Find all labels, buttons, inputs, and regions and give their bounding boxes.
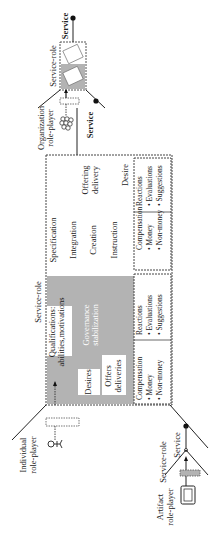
org-interface-bar (60, 98, 79, 104)
creation-label: Creation (88, 225, 98, 255)
organization-service-role-box (60, 42, 86, 90)
left-nonmoney: • Non-money (155, 359, 164, 400)
artifact-interface-bar (180, 470, 200, 476)
desire-label: Desire (120, 164, 130, 186)
artifact-service-label: Service (172, 432, 182, 458)
service-system-diagram: Organization role-player Service-role Se… (0, 0, 217, 543)
specification-label: Specification (48, 217, 58, 263)
qualifications-line2: abilities,motivations (56, 297, 66, 366)
left-evaluations: • Evaluations (145, 295, 154, 335)
artifact-service-role-label: Service-role (158, 441, 168, 483)
org-label-line2: role-player (45, 109, 55, 146)
offering-line2: delivery (90, 165, 100, 194)
org-connector-left (38, 90, 60, 108)
left-reactions: Reactions (135, 305, 144, 335)
individual-label-line1: Individual (18, 437, 28, 473)
right-compensation: Compensation (135, 206, 144, 250)
left-compensation: Compensation (135, 356, 144, 400)
individual-connector (12, 405, 46, 440)
organization-icon (60, 117, 73, 130)
artifact-label-line1: Artifact (155, 493, 165, 520)
right-suggestions: • Suggestions (155, 165, 164, 206)
integration-label: Integration (68, 221, 78, 259)
service-dot-mid (93, 98, 98, 103)
right-reactions: Reactions (135, 176, 144, 206)
offers-line1: Offers (103, 365, 113, 387)
org-service-top-label: Service (60, 13, 70, 40)
org-service-role-label: Service-role (48, 45, 58, 87)
left-money: • Money (145, 374, 154, 400)
person-icon (48, 440, 62, 448)
left-suggestions: • Suggestions (155, 294, 164, 335)
device-icon (181, 486, 195, 504)
org-service-bottom-label: Service (85, 112, 95, 139)
individual-service-role-label: Service-role (33, 281, 43, 323)
right-evaluations: • Evaluations (145, 166, 154, 206)
individual-label-line2: role-player (28, 436, 38, 473)
offers-line2: deliveries (113, 359, 123, 392)
right-nonmoney: • Non-money (155, 209, 164, 250)
governance-line2: stabilization (90, 303, 100, 345)
service-dot-top (70, 15, 75, 20)
offering-line1: Offering (80, 165, 90, 195)
individual-interface-bar (46, 418, 79, 426)
right-money: • Money (145, 224, 154, 250)
desires-label: Desires (83, 369, 93, 395)
artifact-label-line2: role-player (165, 488, 175, 525)
instruction-label: Instruction (109, 221, 119, 259)
